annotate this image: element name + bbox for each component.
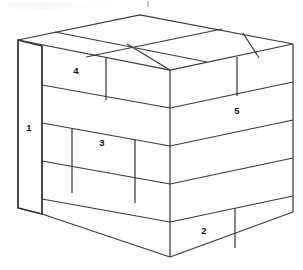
block-label-5: 5: [234, 105, 240, 116]
figure-root: Isometric stacked block diagram A three-…: [0, 0, 303, 270]
isometric-block-diagram: Isometric stacked block diagram A three-…: [0, 0, 303, 270]
block-label-2: 2: [201, 225, 206, 236]
block-label-4: 4: [73, 65, 79, 76]
block-label-3: 3: [99, 137, 104, 148]
front-right-face-fill: [170, 44, 293, 257]
block-label-1: 1: [26, 122, 32, 133]
